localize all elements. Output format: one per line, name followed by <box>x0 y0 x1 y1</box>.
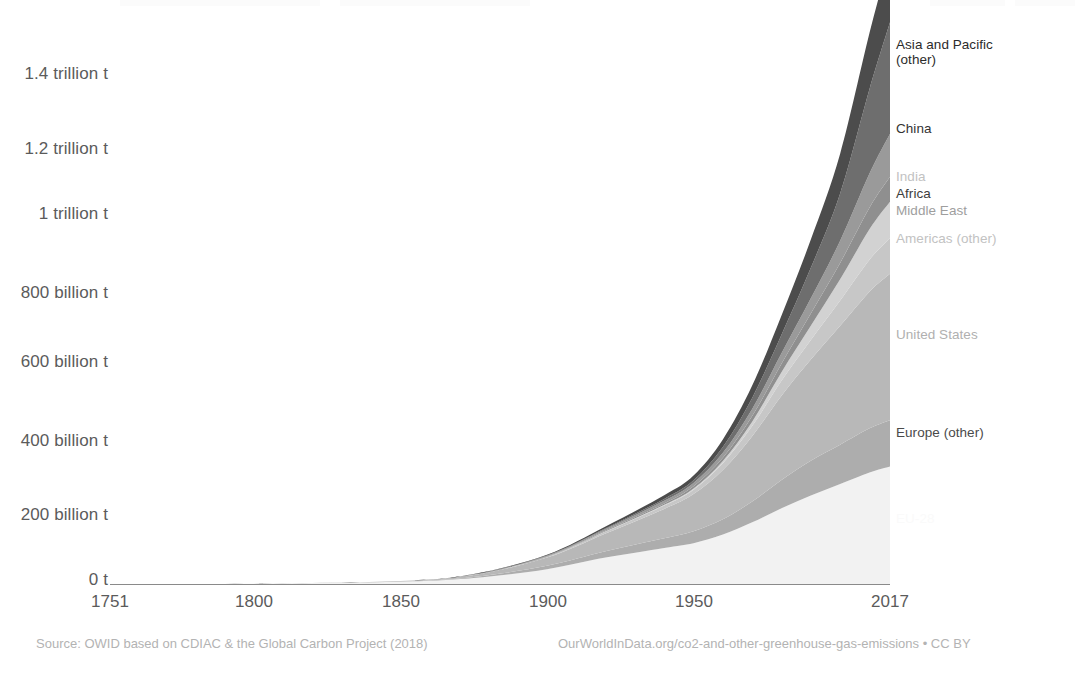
series-label-india[interactable]: India <box>896 169 926 184</box>
x-tick-label: 1751 <box>91 592 129 612</box>
x-tick-label: 1850 <box>382 592 420 612</box>
x-tick-label: 1800 <box>235 592 273 612</box>
source-note: Source: OWID based on CDIAC & the Global… <box>36 636 428 651</box>
series-label-europe-other[interactable]: Europe (other) <box>896 425 984 440</box>
series-label-americas-other[interactable]: Americas (other) <box>896 231 997 246</box>
series-label-africa[interactable]: Africa <box>896 186 931 201</box>
x-tick-label: 2017 <box>871 592 909 612</box>
x-axis-baseline <box>110 584 890 585</box>
x-tick-label: 1950 <box>675 592 713 612</box>
attribution-note[interactable]: OurWorldInData.org/co2-and-other-greenho… <box>558 636 971 651</box>
series-label-eu-28[interactable]: EU-28 <box>896 511 935 526</box>
series-label-middle-east[interactable]: Middle East <box>896 203 967 218</box>
x-tick-label: 1900 <box>529 592 567 612</box>
series-label-united-states[interactable]: United States <box>896 327 978 342</box>
series-label-china[interactable]: China <box>896 121 932 136</box>
area-series-group <box>110 0 890 584</box>
series-label-asia-and-pacific-other[interactable]: Asia and Pacific (other) <box>896 37 993 67</box>
